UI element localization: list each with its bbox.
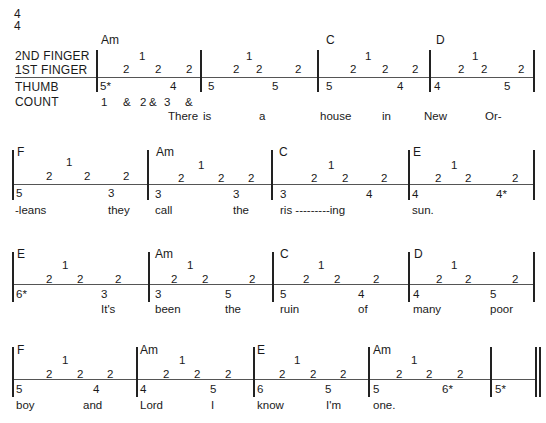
- label-first-finger: 1ST FINGER: [15, 64, 87, 76]
- chord-name: F: [17, 344, 24, 356]
- first-finger-note: 2: [334, 274, 340, 286]
- final-barline: [535, 347, 537, 397]
- thumb-note: 4: [366, 189, 372, 201]
- first-finger-note: 2: [77, 369, 83, 381]
- first-finger-note: 2: [426, 369, 432, 381]
- lyric-word: ruin: [280, 304, 299, 316]
- final-barline: [539, 347, 541, 397]
- lyric-word: There: [168, 111, 198, 123]
- lyric-word: the: [233, 205, 249, 217]
- label-second-finger: 2ND FINGER: [15, 50, 90, 62]
- staff-line: [12, 184, 533, 185]
- first-finger-note: 2: [381, 173, 387, 185]
- first-finger-note: 2: [279, 369, 285, 381]
- count-2: 2: [140, 97, 146, 109]
- first-finger-note: 2: [77, 274, 83, 286]
- thumb-note: 5: [325, 384, 331, 396]
- chord-name: E: [413, 146, 421, 158]
- barline: [200, 50, 202, 92]
- first-finger-note: 2: [481, 64, 487, 76]
- first-finger-note: 2: [123, 171, 129, 183]
- first-finger-note: 2: [256, 64, 262, 76]
- second-finger-note: 1: [365, 51, 371, 63]
- thumb-note: 5: [272, 81, 278, 93]
- first-finger-note: 2: [233, 64, 239, 76]
- barline: [533, 50, 535, 92]
- thumb-note: 4: [140, 384, 146, 396]
- lyric-word: and: [83, 400, 102, 412]
- first-finger-note: 2: [178, 173, 184, 185]
- count-1: 1: [101, 97, 107, 109]
- first-finger-note: 2: [202, 274, 208, 286]
- thumb-note: 4: [434, 81, 440, 93]
- lyric-word: many: [413, 304, 441, 316]
- chord-name: D: [436, 34, 445, 46]
- chord-name: Am: [101, 34, 119, 46]
- second-finger-note: 1: [179, 355, 185, 367]
- thumb-note: 4: [412, 189, 418, 201]
- chord-name: C: [280, 248, 289, 260]
- thumb-note: 3: [108, 188, 114, 200]
- second-finger-note: 1: [62, 355, 68, 367]
- barline: [533, 150, 535, 200]
- second-finger-note: 1: [451, 260, 457, 272]
- first-finger-note: 2: [115, 274, 121, 286]
- second-finger-note: 1: [187, 260, 193, 272]
- lyric-word: I'm: [326, 400, 341, 412]
- first-finger-note: 2: [225, 369, 231, 381]
- barline: [533, 252, 535, 302]
- thumb-note: 5: [326, 81, 332, 93]
- first-finger-note: 2: [512, 173, 518, 185]
- lyric-word: know: [257, 400, 284, 412]
- barline: [12, 347, 14, 397]
- count-and: &: [185, 97, 193, 109]
- first-finger-note: 2: [457, 369, 463, 381]
- thumb-note: 5: [373, 384, 379, 396]
- thumb-note: 4: [93, 384, 99, 396]
- first-finger-note: 2: [373, 274, 379, 286]
- thumb-note: 5: [504, 81, 510, 93]
- label-thumb: THUMB: [15, 81, 59, 93]
- chord-name: Am: [373, 344, 391, 356]
- lyric-word: boy: [16, 400, 35, 412]
- chord-name: Am: [140, 344, 158, 356]
- first-finger-note: 2: [46, 369, 52, 381]
- second-finger-note: 1: [198, 160, 204, 172]
- count-and: &: [149, 97, 157, 109]
- second-finger-note: 1: [294, 355, 300, 367]
- barline: [272, 252, 274, 302]
- lyric-word: It's: [101, 304, 115, 316]
- barline: [12, 252, 14, 302]
- lyric-word: ris ---------ing: [280, 205, 345, 217]
- lyric-word: poor: [490, 304, 513, 316]
- first-finger-note: 2: [382, 64, 388, 76]
- chord-name: Am: [155, 248, 173, 260]
- thumb-note: 5: [490, 289, 496, 301]
- first-finger-note: 2: [84, 171, 90, 183]
- thumb-note: 6*: [442, 384, 453, 396]
- first-finger-note: 2: [342, 173, 348, 185]
- thumb-note: 5: [210, 384, 216, 396]
- lyric-word: of: [358, 304, 368, 316]
- thumb-note: 5: [225, 289, 231, 301]
- label-count: COUNT: [15, 96, 59, 108]
- first-finger-note: 2: [311, 173, 317, 185]
- first-finger-note: 2: [436, 274, 442, 286]
- lyric-word: been: [155, 304, 181, 316]
- thumb-note: 3: [233, 189, 239, 201]
- first-finger-note: 2: [107, 369, 113, 381]
- second-finger-note: 1: [62, 260, 68, 272]
- first-finger-note: 2: [163, 369, 169, 381]
- first-finger-note: 2: [465, 274, 471, 286]
- first-finger-note: 2: [46, 171, 52, 183]
- barline: [136, 347, 138, 397]
- first-finger-note: 2: [249, 274, 255, 286]
- thumb-note: 6*: [16, 289, 27, 301]
- second-finger-note: 1: [66, 157, 72, 169]
- first-finger-note: 2: [218, 173, 224, 185]
- second-finger-note: 1: [328, 160, 334, 172]
- first-finger-note: 2: [295, 64, 301, 76]
- barline: [12, 150, 14, 200]
- thumb-note: 6: [257, 384, 263, 396]
- chord-name: C: [326, 34, 335, 46]
